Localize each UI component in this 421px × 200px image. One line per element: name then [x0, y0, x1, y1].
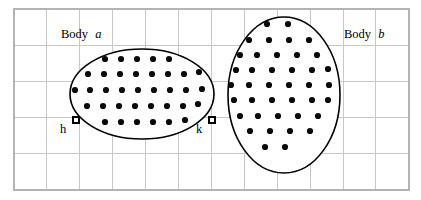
particle-dot: [294, 52, 300, 58]
particle-dot: [231, 97, 237, 103]
particle-dot: [134, 56, 140, 62]
particle-dot: [118, 119, 124, 125]
particle-dot: [237, 52, 243, 58]
particle-dot: [133, 71, 139, 77]
particle-dot: [266, 82, 272, 88]
particle-dot: [247, 128, 253, 134]
particle-dot: [309, 67, 315, 73]
particle-dot: [116, 103, 122, 109]
particle-dot: [150, 56, 156, 62]
particle-dot: [249, 67, 255, 73]
particle-dot: [118, 56, 124, 62]
particle-dot: [85, 71, 91, 77]
particle-dot: [101, 71, 107, 77]
particle-dot: [87, 87, 93, 93]
particle-dot: [269, 67, 275, 73]
particle-dot: [262, 144, 268, 150]
particle-dot: [306, 37, 312, 43]
particle-dot: [286, 82, 292, 88]
node-h-marker[interactable]: [73, 117, 79, 123]
particle-dot: [119, 87, 125, 93]
particle-dot: [285, 21, 291, 27]
particle-dot: [165, 71, 171, 77]
particle-dot: [166, 56, 172, 62]
particle-dot: [151, 87, 157, 93]
particle-dot: [228, 82, 234, 88]
particle-dot: [289, 97, 295, 103]
particle-dot: [246, 82, 252, 88]
particle-dot: [149, 71, 155, 77]
particle-dot: [150, 119, 156, 125]
particle-dot: [307, 128, 313, 134]
particle-dot: [325, 97, 331, 103]
particle-dot: [306, 82, 312, 88]
particle-dot: [84, 103, 90, 109]
particle-dot: [102, 119, 108, 125]
particle-dot: [72, 87, 78, 93]
particle-dot: [325, 66, 331, 72]
particle-dot: [199, 86, 205, 92]
particle-dot: [309, 97, 315, 103]
particle-dot: [102, 56, 108, 62]
body-b-label-symbol: b: [378, 27, 384, 41]
particle-dot: [195, 101, 201, 107]
particle-dot: [282, 144, 288, 150]
particle-dot: [246, 37, 252, 43]
particle-dot: [254, 52, 260, 58]
node-k-marker[interactable]: [209, 117, 215, 123]
particle-dot: [274, 52, 280, 58]
body-a-outline: [70, 49, 214, 139]
particle-dot: [314, 52, 320, 58]
particle-dot: [269, 97, 275, 103]
node-k-label: k: [196, 122, 203, 136]
body-a-label-prefix: Body: [61, 27, 89, 41]
body-b-label: Body b: [344, 27, 384, 41]
particle-dot: [180, 103, 186, 109]
particle-dot: [196, 69, 202, 75]
particle-dot: [100, 103, 106, 109]
particle-dot: [287, 128, 293, 134]
body-a-label: Body a: [61, 27, 101, 41]
particle-dot: [132, 103, 138, 109]
figure-root: h k Body a Body b: [0, 0, 421, 200]
particle-dot: [166, 119, 172, 125]
figure-canvas: h k Body a Body b: [0, 0, 421, 200]
particle-dot: [182, 117, 188, 123]
particle-dot: [117, 71, 123, 77]
particle-dot: [286, 37, 292, 43]
particle-dot: [289, 67, 295, 73]
particle-dot: [103, 87, 109, 93]
particle-dot: [249, 97, 255, 103]
particle-dot: [326, 82, 332, 88]
particle-dot: [315, 113, 321, 119]
particle-dot: [264, 21, 270, 27]
particle-dot: [233, 67, 239, 73]
particle-dot: [148, 103, 154, 109]
particle-dot: [237, 113, 243, 119]
particle-dot: [135, 87, 141, 93]
particle-dot: [266, 37, 272, 43]
body-b-label-prefix: Body: [344, 27, 372, 41]
particle-dot: [181, 71, 187, 77]
body-a-label-symbol: a: [95, 27, 101, 41]
particle-dot: [275, 113, 281, 119]
particle-dot: [134, 119, 140, 125]
particle-dot: [167, 87, 173, 93]
particle-dot: [183, 87, 189, 93]
particle-dot: [255, 113, 261, 119]
node-h-label: h: [60, 122, 67, 136]
particle-dot: [295, 113, 301, 119]
particle-dot: [267, 128, 273, 134]
particle-dot: [164, 103, 170, 109]
